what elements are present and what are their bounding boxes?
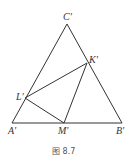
label-a: A': [7, 125, 17, 136]
label-m: M': [57, 125, 69, 136]
label-c: C': [63, 11, 73, 22]
figure-caption: 图 8.7: [52, 147, 75, 156]
segment-k-m: [64, 63, 87, 123]
triangle-diagram: C' K' L' A' M' B' 图 8.7: [0, 0, 135, 164]
label-k: K': [88, 54, 99, 65]
segment-m-l: [25, 98, 64, 123]
side-c-a: [12, 24, 67, 123]
label-b: B': [116, 125, 125, 136]
side-b-c: [67, 24, 122, 123]
label-l: L': [15, 91, 25, 102]
segment-l-k: [25, 63, 87, 98]
